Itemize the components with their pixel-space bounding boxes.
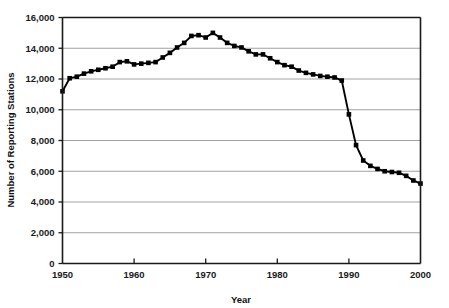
data-point-1965 [168, 51, 173, 56]
data-point-1996 [390, 170, 395, 175]
x-tick-label-1980: 1980 [267, 269, 288, 280]
data-point-1958 [117, 60, 122, 65]
y-axis-title: Number of Reporting Stations [5, 72, 16, 207]
x-axis-tick-labels: 195019601970198019902000 [52, 269, 431, 280]
data-point-1995 [382, 169, 387, 174]
data-point-1988 [332, 75, 337, 80]
y-tick-label-10000: 10,000 [25, 104, 54, 115]
data-point-1994 [375, 167, 380, 172]
y-tick-label-6000: 6,000 [31, 166, 55, 177]
data-point-1951 [67, 76, 72, 81]
data-point-1985 [311, 72, 316, 77]
y-tick-label-0: 0 [49, 258, 54, 269]
data-point-1976 [246, 49, 251, 54]
data-point-1956 [103, 66, 108, 71]
data-point-1989 [339, 78, 344, 83]
data-point-1953 [82, 71, 87, 76]
data-point-1959 [125, 59, 130, 64]
x-tick-label-1970: 1970 [195, 269, 216, 280]
data-point-1986 [318, 74, 323, 79]
data-point-1987 [325, 74, 330, 79]
y-tick-label-16000: 16,000 [25, 12, 54, 23]
data-point-1966 [175, 45, 180, 50]
series-line-0 [63, 33, 421, 184]
data-point-1969 [196, 33, 201, 38]
data-point-1997 [397, 170, 402, 175]
data-point-1961 [139, 61, 144, 66]
data-point-1982 [289, 64, 294, 69]
data-point-1983 [296, 68, 301, 73]
data-point-1992 [361, 158, 366, 163]
data-point-1977 [254, 52, 259, 57]
data-point-1980 [275, 60, 280, 65]
data-point-1962 [146, 61, 151, 66]
y-tick-label-4000: 4,000 [31, 196, 55, 207]
y-tick-label-2000: 2,000 [31, 227, 55, 238]
x-axis-title: Year [231, 294, 251, 305]
y-tick-label-12000: 12,000 [25, 73, 54, 84]
data-point-1971 [211, 31, 216, 36]
data-point-1955 [96, 67, 101, 72]
data-point-1968 [189, 34, 194, 39]
y-tick-label-14000: 14,000 [25, 43, 54, 54]
data-point-1973 [225, 41, 230, 46]
y-axis-tick-labels: 02,0004,0006,0008,00010,00012,00014,0001… [25, 12, 54, 269]
x-tick-label-1990: 1990 [338, 269, 359, 280]
gridlines [63, 18, 421, 233]
x-tick-label-2000: 2000 [410, 269, 431, 280]
data-point-1972 [218, 35, 223, 40]
data-point-1960 [132, 62, 137, 67]
y-tick-label-8000: 8,000 [31, 135, 55, 146]
data-point-1957 [110, 64, 115, 69]
x-tick-label-1950: 1950 [52, 269, 73, 280]
data-point-1967 [182, 41, 187, 46]
data-point-1993 [368, 164, 373, 169]
chart-figure: 02,0004,0006,0008,00010,00012,00014,0001… [0, 0, 449, 308]
x-tick-label-1960: 1960 [124, 269, 145, 280]
data-point-1975 [239, 45, 244, 50]
data-point-1954 [89, 69, 94, 74]
data-point-1974 [232, 44, 237, 49]
data-point-1978 [261, 52, 266, 57]
data-point-1964 [160, 55, 165, 60]
data-point-1990 [347, 112, 352, 117]
data-point-1970 [203, 35, 208, 40]
data-point-1981 [282, 63, 287, 68]
data-point-1952 [75, 74, 80, 79]
data-point-1999 [411, 178, 416, 183]
data-point-1984 [304, 71, 309, 76]
data-point-1979 [268, 56, 273, 61]
line-chart: 02,0004,0006,0008,00010,00012,00014,0001… [0, 0, 449, 308]
data-point-1998 [404, 174, 409, 179]
data-point-1991 [354, 143, 359, 148]
data-point-1963 [153, 60, 158, 65]
data-series [60, 31, 423, 186]
